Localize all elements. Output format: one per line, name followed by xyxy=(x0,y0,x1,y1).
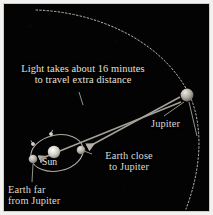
earth-near-body xyxy=(77,146,86,155)
diagram-canvas xyxy=(4,4,209,211)
jupiter-body xyxy=(181,89,194,102)
jupiter-orbit-arc xyxy=(36,10,199,209)
leader-caption xyxy=(79,92,83,105)
leader-earth-far xyxy=(32,164,33,182)
leader-earth-close xyxy=(84,151,92,154)
sun-body xyxy=(48,146,60,158)
leader-jupiter-lower xyxy=(189,102,197,136)
starfield xyxy=(30,18,183,195)
orbit-tick-marks xyxy=(31,130,53,146)
figure-container: Light takes about 16 minutes to travel e… xyxy=(0,0,213,215)
light-ray-far xyxy=(40,102,181,159)
diagram-panel: Light takes about 16 minutes to travel e… xyxy=(3,3,210,212)
earth-far-body xyxy=(29,155,38,164)
light-ray-near xyxy=(88,97,180,147)
